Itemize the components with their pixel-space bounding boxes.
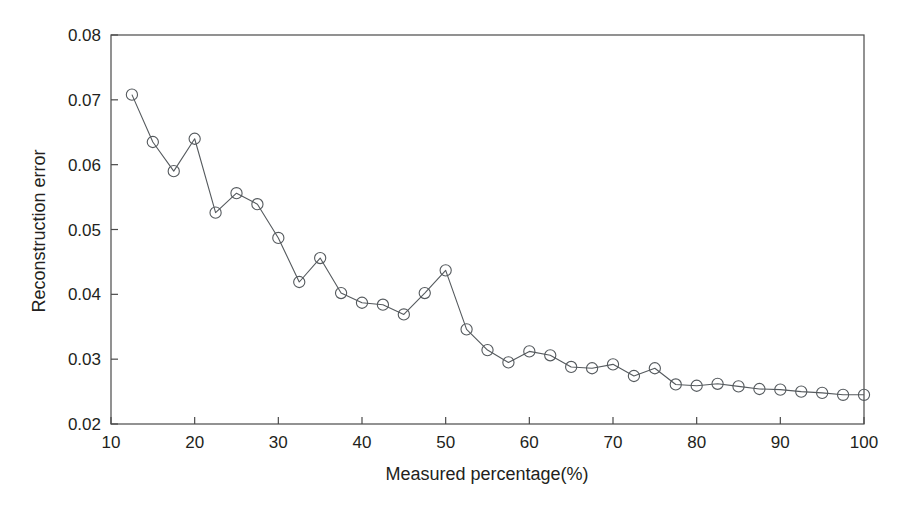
figure-container: 102030405060708090100 0.020.030.040.050.… bbox=[0, 0, 914, 506]
x-tick-label-90: 90 bbox=[771, 433, 790, 452]
y-tick-label-0.05: 0.05 bbox=[68, 221, 101, 240]
y-tick-labels: 0.020.030.040.050.060.070.08 bbox=[68, 26, 101, 434]
series-markers-reconstruction-error bbox=[126, 89, 869, 400]
data-series-group bbox=[126, 89, 869, 400]
x-tick-label-100: 100 bbox=[850, 433, 878, 452]
x-tick-label-30: 30 bbox=[269, 433, 288, 452]
x-tick-label-60: 60 bbox=[520, 433, 539, 452]
axes-frame bbox=[111, 35, 864, 424]
x-tick-label-10: 10 bbox=[102, 433, 121, 452]
x-tick-labels: 102030405060708090100 bbox=[102, 433, 879, 452]
y-tick-label-0.07: 0.07 bbox=[68, 91, 101, 110]
y-axis-ticks bbox=[111, 35, 118, 424]
x-axis-ticks bbox=[111, 417, 864, 424]
x-tick-label-80: 80 bbox=[687, 433, 706, 452]
x-axis-title: Measured percentage(%) bbox=[385, 464, 588, 484]
x-tick-label-40: 40 bbox=[353, 433, 372, 452]
plot-axes bbox=[111, 35, 864, 424]
series-line-reconstruction-error bbox=[132, 95, 864, 395]
reconstruction-error-line-chart: 102030405060708090100 0.020.030.040.050.… bbox=[0, 0, 914, 506]
y-tick-label-0.03: 0.03 bbox=[68, 350, 101, 369]
y-tick-label-0.08: 0.08 bbox=[68, 26, 101, 45]
y-tick-label-0.04: 0.04 bbox=[68, 285, 101, 304]
y-tick-label-0.06: 0.06 bbox=[68, 156, 101, 175]
x-tick-label-70: 70 bbox=[604, 433, 623, 452]
y-tick-label-0.02: 0.02 bbox=[68, 415, 101, 434]
x-tick-label-20: 20 bbox=[185, 433, 204, 452]
x-tick-label-50: 50 bbox=[436, 433, 455, 452]
y-axis-title: Reconstruction error bbox=[29, 149, 49, 312]
